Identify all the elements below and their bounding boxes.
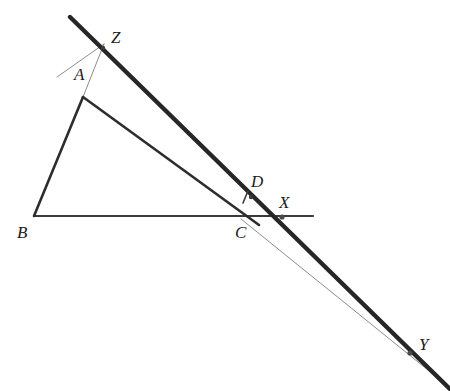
point-label-y: Y [419,336,428,353]
geometry-canvas [0,0,450,391]
geometry-figure: A B C D X Y Z [0,0,450,391]
point-label-b: B [17,224,27,241]
point-label-z: Z [111,29,120,46]
dot-y-icon [407,350,412,355]
dot-d-icon [249,195,253,199]
dot-z-icon [101,46,105,50]
point-label-d: D [251,173,263,190]
point-label-a: A [74,66,84,83]
point-label-x: X [279,194,289,211]
point-label-c: C [235,224,246,241]
dot-x-icon [279,214,284,219]
figure-background [0,0,450,391]
